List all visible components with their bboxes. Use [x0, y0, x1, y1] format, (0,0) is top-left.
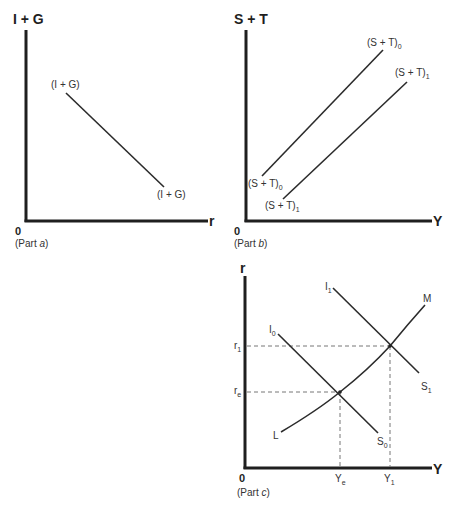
part-b-y-axis-label: S + T: [234, 11, 268, 27]
part-a-origin-label: 0: [15, 225, 21, 237]
part-a-curve-bottom-label: (I + G): [157, 189, 186, 200]
part-c-re-tick-label: re: [234, 385, 241, 398]
part-c-I0-label: I0: [269, 324, 276, 337]
part-b-curve-0-top-label: (S + T)0: [367, 37, 402, 50]
part-b-x-axis-label: Y: [433, 213, 443, 229]
part-c-equilibrium-1-point: [388, 344, 392, 348]
part-a-caption: (Part a): [15, 238, 48, 249]
part-c-S1-label: S1: [421, 381, 432, 394]
part-a-y-axis-label: I + G: [13, 11, 44, 27]
part-c-Ye-tick-label: Ye: [335, 473, 346, 486]
part-c-LM-curve: [281, 305, 425, 432]
part-c-S0-label: S0: [377, 436, 388, 449]
part-c-M-label: M: [423, 293, 431, 304]
part-c-IS-curve-0: [278, 334, 378, 433]
part-c-caption: (Part c): [237, 487, 270, 498]
part-a-curve-top-label: (I + G): [51, 79, 80, 90]
part-b-chart: S + T Y 0 (Part b) (S + T)0 (S + T)1 (S …: [234, 11, 443, 249]
part-c-r1-tick-label: r1: [234, 340, 241, 353]
part-b-curve-1-top-label: (S + T)1: [395, 67, 430, 80]
part-c-origin-label: 0: [239, 472, 245, 484]
part-c-x-axis-label: Y: [433, 461, 443, 477]
part-a-x-axis-label: r: [209, 213, 215, 229]
part-c-L-label: L: [273, 430, 279, 441]
part-c-I1-label: I1: [325, 281, 332, 294]
part-b-saving-tax-curve-1: [283, 82, 407, 199]
part-a-investment-government-curve: [66, 93, 164, 187]
part-b-origin-label: 0: [234, 225, 240, 237]
part-b-curve-1-bottom-label: (S + T)1: [265, 200, 300, 213]
part-a-chart: I + G r 0 (Part a) (I + G) (I + G): [13, 11, 215, 249]
part-c-equilibrium-e-point: [338, 390, 342, 394]
is-lm-diagram: I + G r 0 (Part a) (I + G) (I + G) S + T…: [0, 0, 455, 507]
part-b-saving-tax-curve-0: [262, 50, 383, 176]
part-b-curve-0-bottom-label: (S + T)0: [248, 178, 283, 191]
part-c-chart: r Y 0 (Part c) I0 I1 S1 S0 L M r1 re Ye …: [234, 260, 443, 498]
part-c-Y1-tick-label: Y1: [384, 473, 395, 486]
part-c-y-axis-label: r: [240, 260, 246, 276]
part-b-caption: (Part b): [234, 238, 267, 249]
